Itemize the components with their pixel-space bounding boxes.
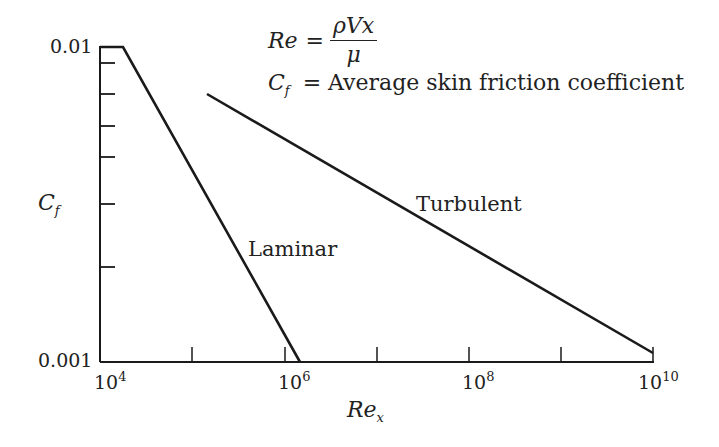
y-axis-title-sub: f (55, 203, 60, 218)
equals-sign: = (306, 28, 324, 53)
y-tick-label-top: 0.01 (50, 35, 92, 57)
y-tick-label-bottom: 0.001 (38, 349, 92, 371)
equals-sign: = (303, 70, 321, 95)
y-axis-title: Cf (38, 190, 60, 215)
x-axis-title-sub: x (377, 410, 384, 425)
reynolds-fraction: ρVx μ (330, 13, 377, 67)
reynolds-denominator: μ (330, 41, 377, 67)
x-tick-label-1e8: 108 (462, 371, 494, 393)
cf-subscript: f (285, 83, 290, 98)
x-tick-exp: 8 (486, 369, 494, 384)
x-tick-exp: 6 (302, 369, 310, 384)
x-tick-base: 10 (94, 371, 118, 393)
x-ticks (192, 347, 653, 362)
reynolds-formula: Re = ρVx μ (268, 10, 377, 70)
reynolds-numerator: ρVx (330, 13, 377, 41)
x-tick-base: 10 (462, 371, 486, 393)
y-ticks (100, 63, 115, 267)
y-axis-title-main: C (38, 190, 55, 215)
cf-symbol: C (268, 70, 285, 95)
cf-definition-text: Average skin friction coefficient (328, 70, 684, 95)
cf-definition: Cf = Average skin friction coefficient (268, 70, 684, 95)
x-tick-exp: 4 (118, 369, 126, 384)
x-tick-base: 10 (638, 371, 662, 393)
x-axis-title-main: Re (347, 397, 377, 422)
x-tick-base: 10 (278, 371, 302, 393)
turbulent-label: Turbulent (416, 192, 522, 216)
x-tick-exp: 10 (662, 369, 679, 384)
x-tick-label-1e6: 106 (278, 371, 310, 393)
x-tick-label-1e10: 1010 (638, 371, 679, 393)
x-tick-label-1e4: 104 (94, 371, 126, 393)
reynolds-lhs: Re (268, 28, 298, 53)
laminar-label: Laminar (248, 237, 337, 261)
x-axis-title: Rex (347, 397, 384, 422)
